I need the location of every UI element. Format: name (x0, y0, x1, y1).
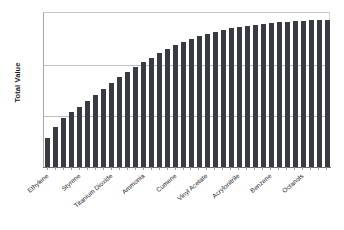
x-axis-labels: EthyleneStyreneTitanium DioxideAmmoniaCu… (0, 0, 344, 230)
bar-chart-figure: Total Value EthyleneStyreneTitanium Diox… (0, 0, 344, 230)
